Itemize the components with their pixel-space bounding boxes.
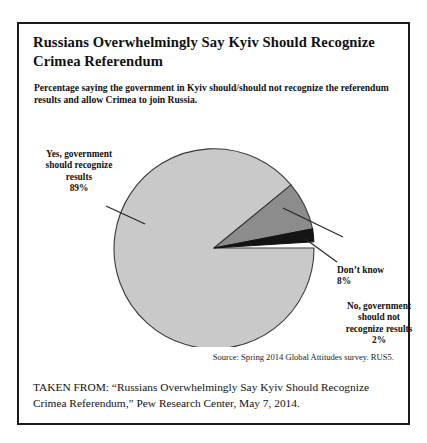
- pie-label-no: No, government should not recognize resu…: [329, 301, 427, 347]
- chart-title: Russians Overwhelmingly Say Kyiv Should …: [33, 33, 393, 70]
- pie-label-yes: Yes, government should recognize results…: [25, 149, 133, 195]
- pie-label-dont-know: Don’t know 8%: [337, 265, 427, 288]
- chart-subtitle: Percentage saying the government in Kyiv…: [34, 82, 397, 106]
- source-note: Source: Spring 2014 Global Attitudes sur…: [19, 352, 394, 362]
- taken-from-caption: TAKEN FROM: “Russians Overwhelmingly Say…: [33, 380, 399, 411]
- figure-frame: Russians Overwhelmingly Say Kyiv Should …: [17, 22, 410, 425]
